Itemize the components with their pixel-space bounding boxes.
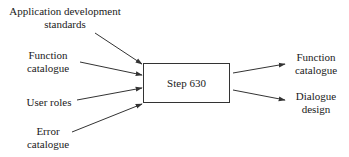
input-label-error-catalogue-line2: catalogue <box>22 138 74 151</box>
input-label-user-roles: User roles <box>22 96 76 109</box>
arrow-input-error-catalogue <box>72 104 142 132</box>
output-label-function-catalogue-line1: Function <box>290 51 342 64</box>
arrow-output-dialogue-design <box>233 90 285 100</box>
input-label-user-roles-line1: User roles <box>22 96 76 109</box>
input-label-standards-line1: Application development <box>8 5 122 18</box>
io-diagram: Application development standards Functi… <box>0 0 349 157</box>
input-label-error-catalogue: Error catalogue <box>22 125 74 150</box>
output-label-function-catalogue-line2: catalogue <box>290 64 342 77</box>
process-label: Step 630 <box>167 77 206 89</box>
input-label-function-catalogue: Function catalogue <box>22 49 74 74</box>
arrow-input-standards <box>95 33 142 64</box>
arrow-output-function-catalogue <box>233 64 285 73</box>
output-label-function-catalogue: Function catalogue <box>290 51 342 76</box>
arrow-input-function-catalogue <box>80 62 142 75</box>
process-box: Step 630 <box>143 63 230 103</box>
output-label-dialogue-design-line2: design <box>290 103 342 116</box>
input-label-function-catalogue-line1: Function <box>22 49 74 62</box>
output-label-dialogue-design: Dialogue design <box>290 90 342 115</box>
input-label-function-catalogue-line2: catalogue <box>22 62 74 75</box>
output-label-dialogue-design-line1: Dialogue <box>290 90 342 103</box>
arrow-input-user-roles <box>77 88 142 100</box>
input-label-standards: Application development standards <box>8 5 122 30</box>
input-label-error-catalogue-line1: Error <box>22 125 74 138</box>
input-label-standards-line2: standards <box>8 18 122 31</box>
